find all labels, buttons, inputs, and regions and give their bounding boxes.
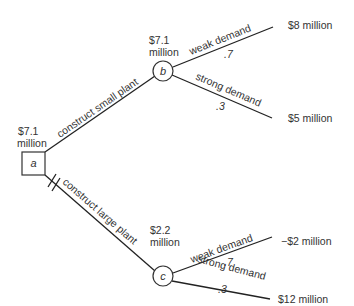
node-c-value-line1: $2.2 (150, 224, 171, 236)
payoff-c-weak: −$2 million (281, 235, 332, 247)
payoff-b-strong: $5 million (288, 112, 333, 124)
node-a-value-line2: million (17, 137, 47, 149)
node-a-label: a (30, 157, 36, 169)
node-a-value-line1: $7.1 (18, 125, 39, 137)
payoff-c-strong: $12 million (278, 293, 328, 305)
node-b-label: b (160, 65, 166, 77)
node-b-value-line1: $7.1 (149, 34, 170, 46)
edge-b-weak-probability: .7 (224, 48, 234, 60)
node-c-label: c (160, 270, 166, 282)
node-b-value-line2: million (149, 46, 179, 58)
payoff-b-weak: $8 million (288, 19, 333, 31)
edge-c-strong-probability: .3 (218, 283, 227, 295)
edge-a-b-label: construct small plant (54, 75, 140, 139)
edge-b-strong-probability: .3 (216, 100, 225, 112)
edge-a-to-c (45, 175, 155, 271)
node-c-value-line2: million (150, 236, 180, 248)
edge-a-to-b (45, 76, 155, 152)
edge-a-c-label: construct large plant (61, 175, 140, 246)
decision-tree-diagram: a $7.1 million b $7.1 million c $2.2 mil… (0, 0, 354, 306)
